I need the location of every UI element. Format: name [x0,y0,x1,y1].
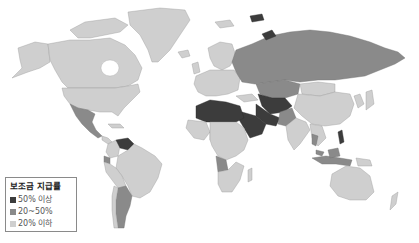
map-legend: 보조금 지급률 50% 이상 20~50% 20% 이하 [5,177,77,232]
region-japan [366,90,374,110]
hudson-bay [101,60,119,76]
region-canada [48,38,142,88]
region-scandinavia [208,42,236,70]
legend-title: 보조금 지급률 [10,181,72,192]
region-argentina [116,186,132,228]
region-central-africa [210,122,248,160]
region-cuba [108,124,124,128]
region-arctic-islands [215,20,234,28]
region-canada-arctic [70,18,128,38]
region-europe [194,70,240,96]
region-korea-japan [354,94,364,108]
legend-label-mid: 20~50% [18,206,53,218]
region-uk [192,62,200,74]
region-new-zealand [390,192,398,210]
region-australia [330,166,374,200]
legend-label-low: 20% 이하 [18,218,52,230]
region-svalbard [250,14,264,22]
region-borneo [328,148,340,158]
region-iceland [178,50,190,58]
legend-swatch-low [10,221,16,227]
region-russia [232,30,405,84]
region-alaska [12,42,50,78]
region-papua [356,158,372,166]
legend-item-high: 50% 이상 [10,194,72,206]
legend-item-mid: 20~50% [10,206,72,218]
region-west-africa [186,120,210,140]
region-philippines [338,130,344,144]
region-malaysia [316,150,324,156]
region-madagascar [248,168,252,182]
legend-item-low: 20% 이하 [10,218,72,230]
legend-swatch-high [10,197,16,203]
legend-swatch-mid [10,209,16,215]
region-turkey [236,94,258,102]
region-north-africa [196,100,244,122]
legend-label-high: 50% 이상 [18,194,52,206]
